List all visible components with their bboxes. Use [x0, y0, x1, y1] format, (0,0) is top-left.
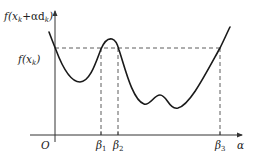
y-axis-label: f(xk+αdk) [3, 10, 53, 24]
origin-label: O [41, 139, 50, 151]
beta1-label: β1 [95, 139, 107, 153]
beta2-label: β2 [112, 139, 124, 153]
line-search-diagram: f(xk+αdk) f(xk) O β1 β2 β3 α [0, 0, 254, 157]
function-curve [49, 27, 230, 108]
beta3-label: β3 [214, 139, 226, 153]
alpha-axis-label: α [237, 139, 244, 151]
level-label: f(xk) [17, 53, 40, 67]
